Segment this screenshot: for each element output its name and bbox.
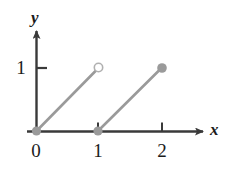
origin-closed-point-marker [32,126,41,135]
data-lines-group [37,69,162,132]
line-segment-1 [37,70,98,132]
y-axis-label: y [31,9,39,26]
segment-2-closed-endpoint-marker [157,63,167,73]
segment-2-closed-start-marker [93,126,102,135]
function-graph-figure: y x 1 0 1 2 [0,0,230,173]
axes-group [27,31,203,133]
x-tick-label-2: 2 [154,141,170,160]
tick-marks-group [37,68,163,132]
data-markers-group [32,63,167,135]
x-tick-label-1: 1 [90,141,106,160]
y-tick-label-1: 1 [13,58,29,77]
x-tick-label-0: 0 [28,141,44,160]
line-segment-2 [98,69,161,132]
segment-1-open-endpoint-marker [94,63,102,71]
x-axis-label: x [210,121,219,138]
